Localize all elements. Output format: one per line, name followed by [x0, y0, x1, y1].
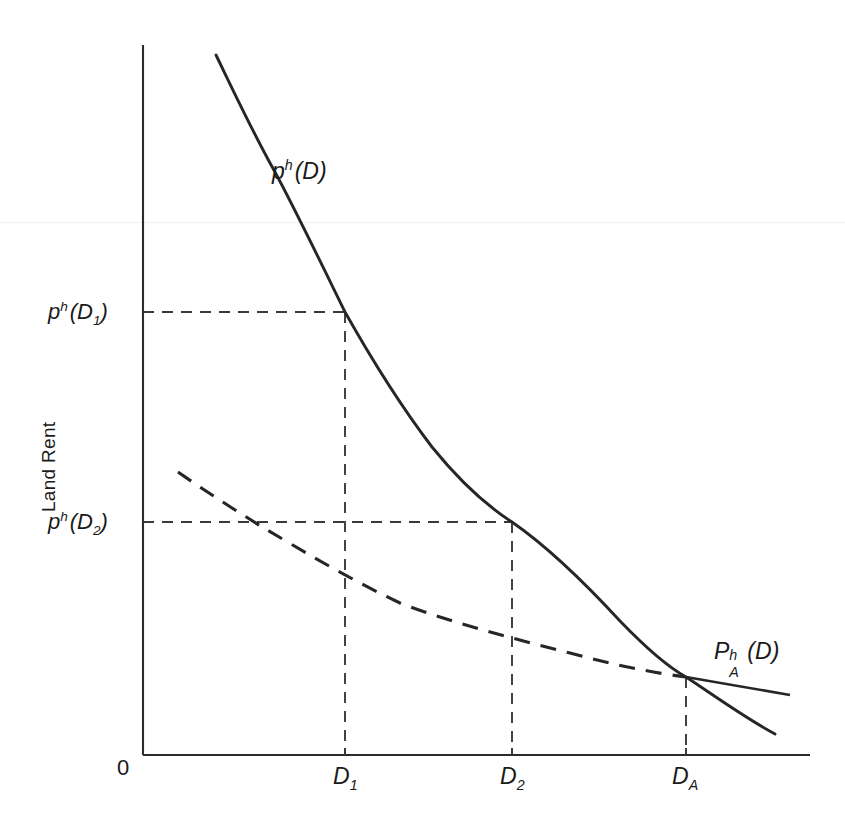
y-level-label-ph-d2: ph (D2): [48, 510, 108, 537]
plot-canvas: [0, 0, 845, 822]
d1-sub: 1: [350, 777, 358, 793]
curve-ph-arg: D: [302, 158, 319, 184]
curve-pa-sub: A: [729, 665, 739, 679]
ph-d1-close-paren: ): [100, 299, 107, 324]
ph-d1-sup: h: [60, 299, 68, 314]
curve-pa-base: P: [714, 638, 729, 664]
ph-d2-arg: D: [77, 509, 93, 534]
curve-label-ph-d: ph (D): [272, 158, 327, 183]
x-tick-label-d1: D1: [333, 765, 358, 792]
d1-base: D: [333, 763, 350, 789]
land-rent-figure: Land Rent 0 ph (D1) ph (D2) D1 D2 DA ph …: [0, 0, 845, 822]
ph-d2-sup: h: [60, 509, 68, 524]
curve-ph-open-paren: (: [293, 158, 303, 184]
y-level-label-ph-d1: ph (D1): [48, 300, 108, 327]
origin-label: 0: [117, 757, 129, 779]
curve-ph-sup: h: [285, 157, 293, 173]
d2-sub: 2: [517, 777, 525, 793]
ph-d1-open-paren: (: [68, 299, 77, 324]
ph-d2-open-paren: (: [68, 509, 77, 534]
curve-ph-close-paren: ): [319, 158, 327, 184]
ph-d2-close-paren: ): [100, 509, 107, 534]
curve-pa-sup: h: [729, 648, 737, 662]
x-tick-label-d2: D2: [500, 765, 525, 792]
da-base: D: [672, 763, 689, 789]
curve-ph-base: p: [272, 158, 285, 184]
da-sub: A: [689, 777, 699, 793]
y-axis-title: Land Rent: [38, 422, 60, 512]
curve-pa-h-d: [178, 472, 686, 677]
ph-d2-base: p: [48, 509, 60, 534]
ph-d1-base: p: [48, 299, 60, 324]
curve-pa-close-paren: ): [772, 638, 780, 664]
d2-base: D: [500, 763, 517, 789]
curve-pa-arg: D: [755, 638, 772, 664]
ph-d1-arg: D: [77, 299, 93, 324]
curve-pa-open-paren: (: [745, 638, 755, 664]
x-tick-label-da: DA: [672, 765, 698, 792]
curve-label-pa-h-d: PhA (D): [714, 640, 779, 663]
